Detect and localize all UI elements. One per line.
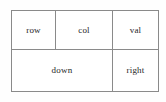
- cell-right: right: [113, 50, 159, 92]
- cell-down: down: [12, 50, 113, 92]
- table-body: row col val down right: [12, 11, 159, 92]
- cell-val: val: [113, 11, 159, 50]
- table-row: row col val: [12, 11, 159, 50]
- table-row: down right: [12, 50, 159, 92]
- cell-row: row: [12, 11, 56, 50]
- layout-table: row col val down right: [11, 10, 159, 92]
- cell-col: col: [56, 11, 113, 50]
- diagram-canvas: row col val down right: [0, 0, 166, 102]
